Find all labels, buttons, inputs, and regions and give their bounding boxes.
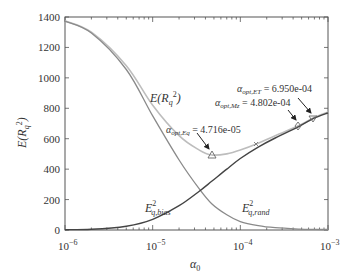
y-tick-1400: 1400 <box>38 11 61 23</box>
x-tick-labels: 10−6 10−5 10−4 10−3 <box>58 238 340 252</box>
y-tick-0: 0 <box>55 224 61 236</box>
annotation-alpha-opt-eq: αopt,Eq = 4.716e-05 <box>166 124 241 137</box>
x-tick-1e-6: 10−6 <box>58 238 78 252</box>
y-axis-title: E(Rq2) <box>15 117 31 149</box>
x-axis-title: α0 <box>190 257 200 273</box>
y-tick-400: 400 <box>44 163 61 175</box>
arrow-et <box>298 98 311 113</box>
arrow-mz <box>288 110 296 120</box>
chart: 0 200 400 600 800 1000 1200 1400 10−6 10… <box>0 0 348 277</box>
y-tick-labels: 0 200 400 600 800 1000 1200 1400 <box>38 11 61 236</box>
annotation-alpha-opt-et: αopt,ET = 6.950e-04 <box>237 83 312 96</box>
label-rand-error: E2q,rand <box>241 199 270 217</box>
y-tick-800: 800 <box>44 102 61 114</box>
markers <box>208 116 317 158</box>
arrow-eq <box>197 133 209 149</box>
x-tick-1e-4: 10−4 <box>233 238 253 252</box>
label-bias-error: E2q,bias <box>144 199 171 217</box>
annotation-alpha-opt-mz: αopt,Mz = 4.802e-04 <box>215 97 290 110</box>
x-tick-1e-5: 10−5 <box>146 238 166 252</box>
label-total-error: E(Rq2) <box>149 90 181 107</box>
x-tick-1e-3: 10−3 <box>320 238 340 252</box>
y-tick-1000: 1000 <box>38 72 61 84</box>
y-tick-1200: 1200 <box>38 41 61 53</box>
y-tick-200: 200 <box>44 194 61 206</box>
y-tick-600: 600 <box>44 133 61 145</box>
